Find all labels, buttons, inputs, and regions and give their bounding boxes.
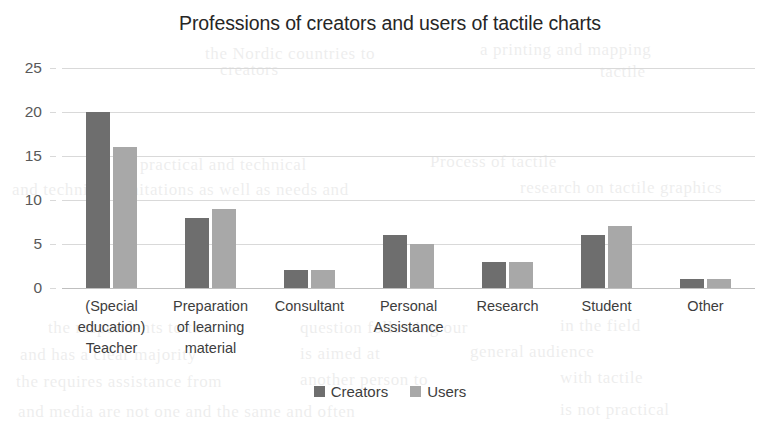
bar-group [359,68,458,288]
legend-swatch-icon [314,386,325,397]
y-axis-tick-mark [50,244,56,245]
y-axis-tick-mark [50,288,56,289]
bar-group [557,68,656,288]
x-axis-category-label: Research [458,296,557,317]
bar [482,262,506,288]
x-axis-category-labels: (Specialeducation)TeacherPreparationof l… [62,296,755,366]
y-axis: 0510152025 [0,68,56,288]
y-axis-tick-mark [50,68,56,69]
category-label-line: of learning [161,317,260,338]
y-axis-tick-label: 10 [25,191,42,209]
bar [212,209,236,288]
category-label-line: Other [656,296,755,317]
chart-legend: CreatorsUsers [0,383,780,400]
category-label-line: Teacher [62,338,161,359]
bar [185,218,209,288]
bar-group [62,68,161,288]
bar [608,226,632,288]
bar [284,270,308,288]
bar-chart: Professions of creators and users of tac… [0,0,780,434]
bar [410,244,434,288]
y-axis-tick-label: 25 [25,59,42,77]
bar [680,279,704,288]
bar [707,279,731,288]
legend-item[interactable]: Users [410,383,466,400]
category-label-line: Assistance [359,317,458,338]
bar [86,112,110,288]
y-axis-tick-mark [50,156,56,157]
x-axis-category-label: PersonalAssistance [359,296,458,338]
category-label-line: Student [557,296,656,317]
x-axis-category-label: Consultant [260,296,359,317]
category-label-line: Consultant [260,296,359,317]
x-axis-category-label: Student [557,296,656,317]
x-axis-category-label: Preparationof learningmaterial [161,296,260,359]
y-axis-tick-label: 20 [25,103,42,121]
y-axis-tick-label: 0 [33,279,42,297]
legend-label: Users [427,383,466,400]
gridline [62,288,755,289]
category-label-line: (Special [62,296,161,317]
legend-item[interactable]: Creators [314,383,389,400]
bar-group [161,68,260,288]
y-axis-tick-mark [50,200,56,201]
bar [383,235,407,288]
x-axis-category-label: Other [656,296,755,317]
bar [311,270,335,288]
y-axis-tick-label: 5 [33,235,42,253]
bar-group [656,68,755,288]
bar-group [458,68,557,288]
category-label-line: Research [458,296,557,317]
bar [581,235,605,288]
category-label-line: Personal [359,296,458,317]
bar [509,262,533,288]
y-axis-tick-mark [50,112,56,113]
chart-title: Professions of creators and users of tac… [0,12,780,35]
bar-group [260,68,359,288]
y-axis-tick-label: 15 [25,147,42,165]
x-axis-category-label: (Specialeducation)Teacher [62,296,161,359]
category-label-line: material [161,338,260,359]
category-label-line: Preparation [161,296,260,317]
legend-label: Creators [331,383,389,400]
bar [113,147,137,288]
legend-swatch-icon [410,386,421,397]
category-label-line: education) [62,317,161,338]
bars-layer [62,68,755,288]
